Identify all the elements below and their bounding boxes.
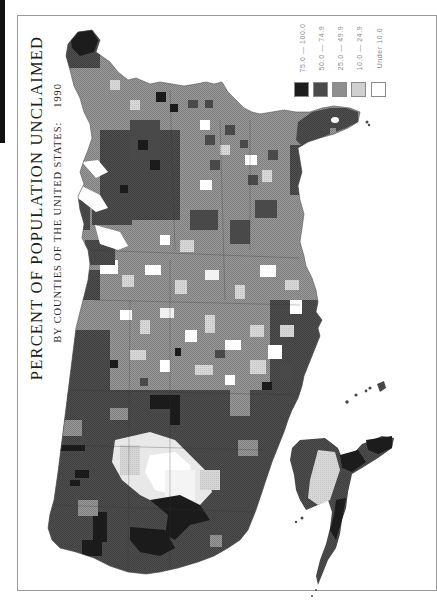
map-subtitle: BY COUNTIES OF THE UNITED STATES:1990 bbox=[52, 83, 63, 343]
map-year: 1990 bbox=[52, 83, 63, 108]
legend-swatch bbox=[371, 82, 386, 97]
legend-label: 50.0 — 74.9 bbox=[317, 26, 324, 71]
legend-label: 75.0 — 100.0 bbox=[298, 23, 305, 72]
legend-swatch bbox=[351, 82, 366, 97]
map-title: PERCENT OF POPULATION UNCLAIMED bbox=[27, 36, 47, 380]
legend-label: 25.0 — 49.9 bbox=[336, 26, 343, 71]
subtitle-text: BY COUNTIES OF THE UNITED STATES: bbox=[52, 122, 63, 343]
legend-swatch bbox=[294, 82, 309, 97]
legend-label: 10.0 — 24.9 bbox=[355, 26, 362, 71]
legend-swatch bbox=[332, 82, 347, 97]
legend-item: 75.0 — 100.0 bbox=[293, 20, 310, 100]
conterminous-us bbox=[40, 20, 370, 590]
legend-item: 10.0 — 24.9 bbox=[350, 20, 367, 100]
legend-item: 25.0 — 49.9 bbox=[331, 20, 348, 100]
legend-item: 50.0 — 74.9 bbox=[312, 20, 329, 100]
legend: 75.0 — 100.0 50.0 — 74.9 25.0 — 49.9 10.… bbox=[293, 20, 393, 100]
legend-swatch bbox=[313, 82, 328, 97]
alaska bbox=[290, 436, 394, 597]
legend-item: Under 10.0 bbox=[370, 20, 387, 100]
hawaii bbox=[345, 381, 386, 404]
legend-label: Under 10.0 bbox=[375, 28, 382, 69]
